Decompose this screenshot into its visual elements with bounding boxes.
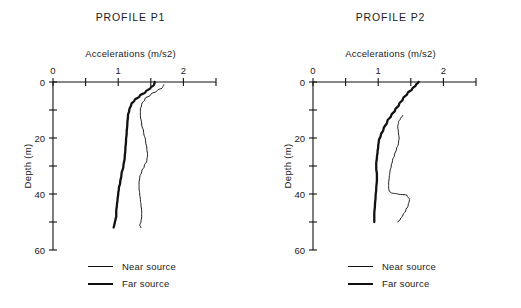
- legend-line-icon-near-source: [348, 266, 373, 267]
- legend-item-far-source: Far source: [260, 275, 521, 292]
- legend-p1: Near source Far source: [0, 258, 261, 292]
- legend-p2: Near source Far source: [260, 258, 521, 292]
- series-line-near-source: [139, 85, 164, 228]
- series-line-near-source: [389, 116, 410, 222]
- y-axis-title-p1: Depth (m): [22, 144, 33, 189]
- legend-label-far-source: Far source: [122, 278, 169, 289]
- legend-label-near-source: Near source: [122, 261, 176, 272]
- chart-panel-p1: PROFILE P1 Accelerations (m/s2) 01202040…: [0, 0, 261, 308]
- legend-line-icon-far-source: [88, 283, 113, 285]
- legend-label-far-source: Far source: [382, 278, 429, 289]
- legend-item-near-source: Near source: [0, 258, 261, 275]
- svg-text:0: 0: [310, 65, 315, 76]
- svg-text:1: 1: [376, 65, 381, 76]
- legend-line-icon-far-source: [348, 283, 373, 285]
- svg-text:20: 20: [34, 133, 45, 144]
- svg-text:60: 60: [34, 245, 45, 256]
- series-group-p1: [114, 82, 164, 228]
- svg-text:0: 0: [300, 77, 305, 88]
- svg-text:0: 0: [50, 65, 55, 76]
- svg-text:0: 0: [40, 77, 45, 88]
- svg-text:40: 40: [34, 189, 45, 200]
- figure-canvas: PROFILE P1 Accelerations (m/s2) 01202040…: [0, 0, 521, 308]
- svg-text:40: 40: [294, 189, 305, 200]
- series-line-far-source: [374, 82, 418, 222]
- svg-text:2: 2: [441, 65, 446, 76]
- svg-text:2: 2: [181, 65, 186, 76]
- legend-line-icon-near-source: [88, 266, 113, 267]
- chart-panel-p2: PROFILE P2 Accelerations (m/s2) 01202040…: [260, 0, 521, 308]
- axes-group-p2: 0120204060: [294, 65, 476, 256]
- legend-label-near-source: Near source: [382, 261, 436, 272]
- series-line-far-source: [114, 82, 155, 228]
- y-axis-title-p2: Depth (m): [282, 144, 293, 189]
- legend-item-far-source: Far source: [0, 275, 261, 292]
- svg-text:20: 20: [294, 133, 305, 144]
- svg-text:1: 1: [116, 65, 121, 76]
- svg-text:60: 60: [294, 245, 305, 256]
- series-group-p2: [374, 82, 418, 222]
- legend-item-near-source: Near source: [260, 258, 521, 275]
